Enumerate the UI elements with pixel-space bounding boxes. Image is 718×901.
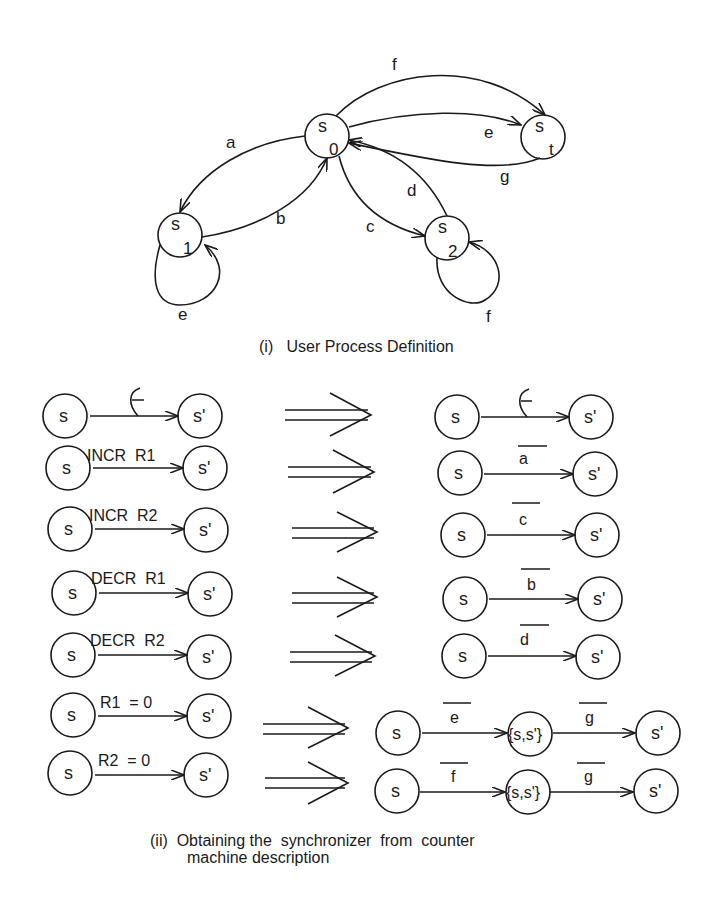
synchronizer-rules: s s' s a s' s c s' s [150,389,680,866]
svg-text:s: s [459,589,468,609]
implication-arrows [263,393,377,804]
svg-text:s: s [67,645,76,665]
edge-e [349,113,521,127]
rule-r2-zero-left: s R2 = 0 s' [48,751,228,797]
svg-text:s: s [438,217,447,237]
svg-text:DECR R1: DECR R1 [91,570,166,587]
rule-epsilon-left: s s' [43,388,222,438]
svg-text:g: g [585,709,594,726]
synchronizer-figure: s 0 s 1 s 2 s t a b c d e f [0,0,718,901]
implies-arrow-icon [265,762,348,804]
edge-loop-f [437,242,499,303]
svg-text:c: c [366,217,375,236]
svg-text:s': s' [199,520,211,540]
svg-text:s: s [535,116,544,136]
svg-text:1: 1 [183,239,192,258]
svg-text:s': s' [591,647,603,667]
rule-decr-r1-left: s DECR R1 s' [52,570,232,616]
svg-text:g: g [500,167,509,186]
svg-text:g: g [584,768,593,785]
svg-text:a: a [226,133,236,152]
rule-a-bar-right: s a s' [438,446,617,496]
implies-arrow-icon [290,635,375,676]
svg-text:DECR R2: DECR R2 [90,632,165,649]
svg-text:s': s' [584,407,596,427]
rule-d-bar-right: s d s' [442,625,620,679]
svg-text:d: d [407,181,416,200]
caption-part-ii-line1: (ii) Obtaining the synchronizer from cou… [150,832,475,849]
implies-arrow-icon [263,707,348,748]
svg-text:R1 = 0: R1 = 0 [100,694,152,711]
svg-text:b: b [527,576,536,593]
rule-incr-r1-left: s INCR R1 s' [46,446,227,490]
rule-e-g-bar-right: s e {s,s'} g s' [376,703,680,756]
caption-part-i: (i) User Process Definition [259,338,454,355]
rule-c-bar-right: s c s' [441,503,619,557]
svg-text:s: s [59,406,68,426]
svg-text:s: s [68,583,77,603]
svg-text:s': s' [203,584,215,604]
implies-arrow-icon [292,512,377,552]
svg-text:s: s [62,458,71,478]
svg-text:s': s' [651,723,663,743]
rule-r1-zero-left: s R1 = 0 s' [51,693,231,738]
rule-epsilon-right: s s' [435,389,613,439]
svg-text:e: e [484,123,493,142]
svg-text:s: s [318,116,327,136]
svg-text:e: e [450,709,459,726]
caption-part-ii-line2: machine description [187,849,329,866]
edge-a [180,136,305,212]
svg-text:s': s' [590,525,602,545]
rule-decr-r2-left: s DECR R2 s' [51,632,231,679]
state-s0: s 0 [305,114,349,159]
svg-text:s: s [391,781,400,801]
svg-text:INCR R2: INCR R2 [89,507,158,524]
svg-text:s: s [64,519,73,539]
svg-text:s': s' [588,464,600,484]
counter-machine-rules: s s' s INCR R1 s' s INCR R2 s' s [43,388,232,797]
svg-text:s': s' [202,706,214,726]
svg-text:s: s [64,763,73,783]
svg-text:s': s' [202,647,214,667]
svg-text:c: c [519,511,527,528]
svg-text:s': s' [198,458,210,478]
implies-arrow-icon [288,450,374,493]
rule-incr-r2-left: s INCR R2 s' [48,507,228,552]
svg-text:e: e [178,305,187,324]
svg-text:d: d [520,631,529,648]
state-s1: s 1 [158,213,202,258]
svg-text:s: s [457,525,466,545]
svg-text:t: t [549,140,554,159]
edge-d [349,140,447,216]
svg-text:R2 = 0: R2 = 0 [98,752,150,769]
svg-text:s': s' [193,406,205,426]
svg-text:s: s [458,646,467,666]
implies-arrow-icon [292,577,377,617]
svg-text:s: s [454,463,463,483]
user-process-graph: s 0 s 1 s 2 s t a b c d e f [155,55,565,355]
edge-f [336,76,545,116]
svg-text:s': s' [593,589,605,609]
svg-text:s: s [171,214,180,234]
svg-text:s': s' [649,781,661,801]
svg-text:{s,s'}: {s,s'} [508,726,543,743]
svg-text:f: f [451,768,456,785]
state-st: s t [521,115,565,159]
svg-text:INCR R1: INCR R1 [87,447,156,464]
svg-text:s: s [451,407,460,427]
svg-text:a: a [519,450,528,467]
svg-text:s: s [67,705,76,725]
implies-arrow-icon [285,393,371,436]
rule-b-bar-right: s b s' [443,569,622,621]
svg-text:f: f [392,55,397,74]
svg-text:s': s' [199,765,211,785]
rule-f-g-bar-right: s f {s,s'} g s' [375,763,678,814]
svg-text:0: 0 [329,140,338,159]
state-s2: s 2 [425,216,469,261]
edge-g [349,143,540,165]
svg-text:f: f [486,307,491,326]
svg-text:b: b [276,209,285,228]
svg-text:2: 2 [448,242,457,261]
edge-b [202,158,327,237]
svg-text:{s,s'}: {s,s'} [506,784,541,801]
